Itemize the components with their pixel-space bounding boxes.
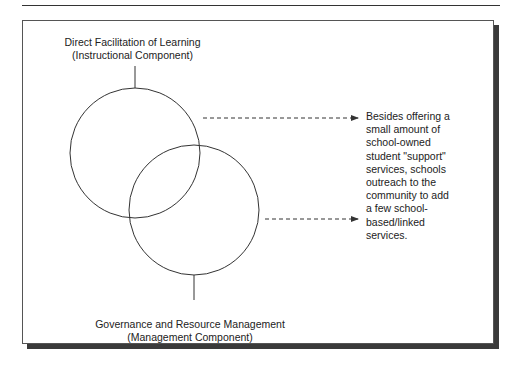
instructional-component-label: Direct Facilitation of Learning (Instruc… [60, 36, 205, 62]
note-line: outreach to the [366, 176, 476, 189]
instructional-subtitle: (Instructional Component) [60, 49, 205, 62]
note-line: Besides offering a [366, 110, 476, 123]
note-line: student "support" [366, 150, 476, 163]
instructional-title: Direct Facilitation of Learning [60, 36, 205, 49]
management-title: Governance and Resource Management [90, 318, 290, 331]
management-subtitle: (Management Component) [90, 331, 290, 344]
note-line: based/linked [366, 216, 476, 229]
note-line: a few school- [366, 202, 476, 215]
note-line: small amount of [366, 123, 476, 136]
note-line: services. [366, 229, 476, 242]
note-line: school-owned [366, 136, 476, 149]
instructional-circle [70, 88, 200, 218]
management-component-label: Governance and Resource Management (Mana… [90, 318, 290, 344]
note-line: community to add [366, 189, 476, 202]
management-circle [129, 145, 259, 275]
note-line: services, schools [366, 163, 476, 176]
support-services-note: Besides offering a small amount of schoo… [366, 110, 476, 242]
